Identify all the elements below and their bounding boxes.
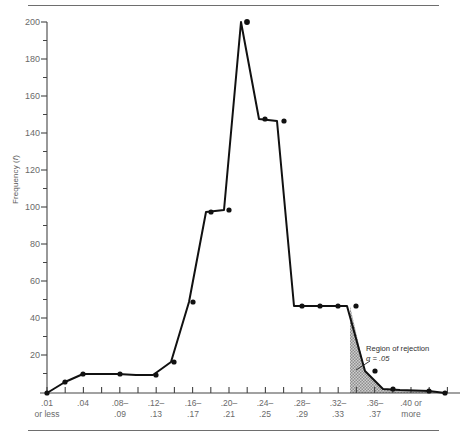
chart-plot-area <box>0 0 467 438</box>
x-tick-label-8-line2: .33 <box>332 409 344 419</box>
annotation-line-2: α = .05 <box>366 354 390 363</box>
x-tick-label-6-line1: .24– <box>257 398 274 408</box>
x-tick-label-2-line2: .09 <box>114 409 126 419</box>
figure-container: Frequency (f) 200 180 160 140 120 100 80… <box>0 0 467 438</box>
x-tick-label-10: .40 or more <box>385 398 437 419</box>
x-tick-label-1-line1: .04 <box>77 398 89 408</box>
x-tick-label-0-line2: or less <box>34 409 59 419</box>
x-tick-label-4-line1: .16– <box>185 398 202 408</box>
x-tick-label-3-line1: .12– <box>148 398 165 408</box>
x-tick-label-3-line2: .13 <box>150 409 162 419</box>
x-tick-label-8-line1: .32– <box>330 398 347 408</box>
x-tick-label-7-line1: .28– <box>294 398 311 408</box>
x-tick-label-10-line2: more <box>401 409 420 419</box>
x-tick-label-0-line1: .01 <box>41 398 53 408</box>
x-tick-label-6-line2: .25 <box>259 409 271 419</box>
x-tick-label-5-line1: .20– <box>221 398 238 408</box>
rejection-region-annotation: Region of rejection α = .05 <box>366 344 429 363</box>
frequency-data-points <box>44 19 447 396</box>
x-tick-label-7-line2: .29 <box>296 409 308 419</box>
frequency-polygon-line <box>47 22 445 393</box>
x-tick-label-4-line2: .17 <box>187 409 199 419</box>
x-tick-label-5-line2: .21 <box>223 409 235 419</box>
x-tick-label-9-line1: .36– <box>367 398 384 408</box>
x-tick-label-2-line1: .08– <box>112 398 129 408</box>
x-tick-label-9-line2: .37 <box>369 409 381 419</box>
x-tick-label-10-line1: .40 or <box>400 398 422 408</box>
annotation-line-1: Region of rejection <box>366 344 429 353</box>
